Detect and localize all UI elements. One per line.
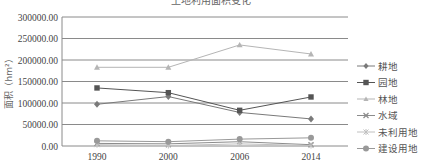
y-tick-label: 50000.00 bbox=[22, 120, 58, 130]
series-line bbox=[97, 45, 311, 67]
square-marker bbox=[237, 108, 242, 113]
series-耕地 bbox=[94, 93, 314, 122]
square-marker bbox=[94, 85, 99, 90]
square-marker bbox=[363, 80, 368, 85]
diamond-marker bbox=[363, 63, 368, 69]
y-tick-label: 100000.00 bbox=[18, 99, 59, 109]
series-林地 bbox=[94, 42, 314, 70]
circle-marker bbox=[237, 136, 243, 142]
square-marker bbox=[308, 94, 313, 99]
y-tick-label: 300000.00 bbox=[18, 13, 59, 23]
circle-marker bbox=[165, 139, 171, 145]
legend-item: 林地 bbox=[357, 94, 398, 105]
legend-label: 耕地 bbox=[378, 61, 398, 72]
legend-label: 水域 bbox=[378, 110, 398, 121]
series-未利用地 bbox=[95, 141, 314, 149]
y-axis: 0.0050000.00100000.00150000.00200000.002… bbox=[18, 13, 348, 152]
legend-label: 林地 bbox=[378, 94, 398, 105]
circle-marker bbox=[308, 135, 314, 141]
circle-marker bbox=[363, 146, 369, 152]
x-tick-label: 2014 bbox=[302, 152, 321, 162]
legend-label: 未利用地 bbox=[378, 127, 418, 138]
legend-item: 未利用地 bbox=[357, 127, 418, 138]
legend: 耕地园地林地水域未利用地建设用地 bbox=[357, 61, 418, 155]
diamond-marker bbox=[94, 101, 100, 108]
x-tick-label: 2000 bbox=[159, 152, 178, 162]
x-tick-label: 2006 bbox=[230, 152, 249, 162]
x-axis: 1990200020062014 bbox=[88, 152, 321, 162]
legend-label: 园地 bbox=[378, 77, 398, 88]
y-tick-label: 200000.00 bbox=[18, 56, 59, 66]
series-line bbox=[97, 138, 311, 142]
series-园地 bbox=[94, 85, 313, 113]
series-line bbox=[97, 88, 311, 110]
diamond-marker bbox=[308, 115, 314, 122]
line-chart: 0.0050000.00100000.00150000.00200000.002… bbox=[0, 0, 421, 167]
series-line bbox=[97, 97, 311, 119]
triangle-marker bbox=[237, 42, 243, 47]
legend-item: 水域 bbox=[357, 110, 398, 121]
y-tick-label: 0.00 bbox=[41, 142, 58, 152]
legend-item: 建设用地 bbox=[357, 143, 418, 154]
x-tick-label: 1990 bbox=[88, 152, 107, 162]
y-tick-label: 150000.00 bbox=[18, 77, 59, 87]
legend-item: 耕地 bbox=[357, 61, 398, 72]
legend-label: 建设用地 bbox=[378, 143, 418, 154]
y-tick-label: 250000.00 bbox=[18, 34, 59, 44]
circle-marker bbox=[94, 138, 100, 144]
square-marker bbox=[166, 90, 171, 95]
y-axis-label: 面积（hm²） bbox=[3, 54, 14, 108]
legend-item: 园地 bbox=[357, 77, 398, 88]
